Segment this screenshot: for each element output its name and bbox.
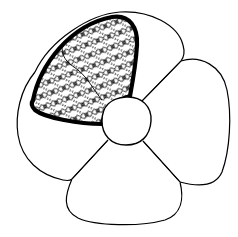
flower-svg (0, 0, 238, 237)
petal-right (142, 59, 230, 185)
flower-center (102, 97, 151, 145)
petal-bottom (66, 179, 181, 225)
flower-drawing: Line drawing of a four-petal flower with… (0, 0, 238, 237)
